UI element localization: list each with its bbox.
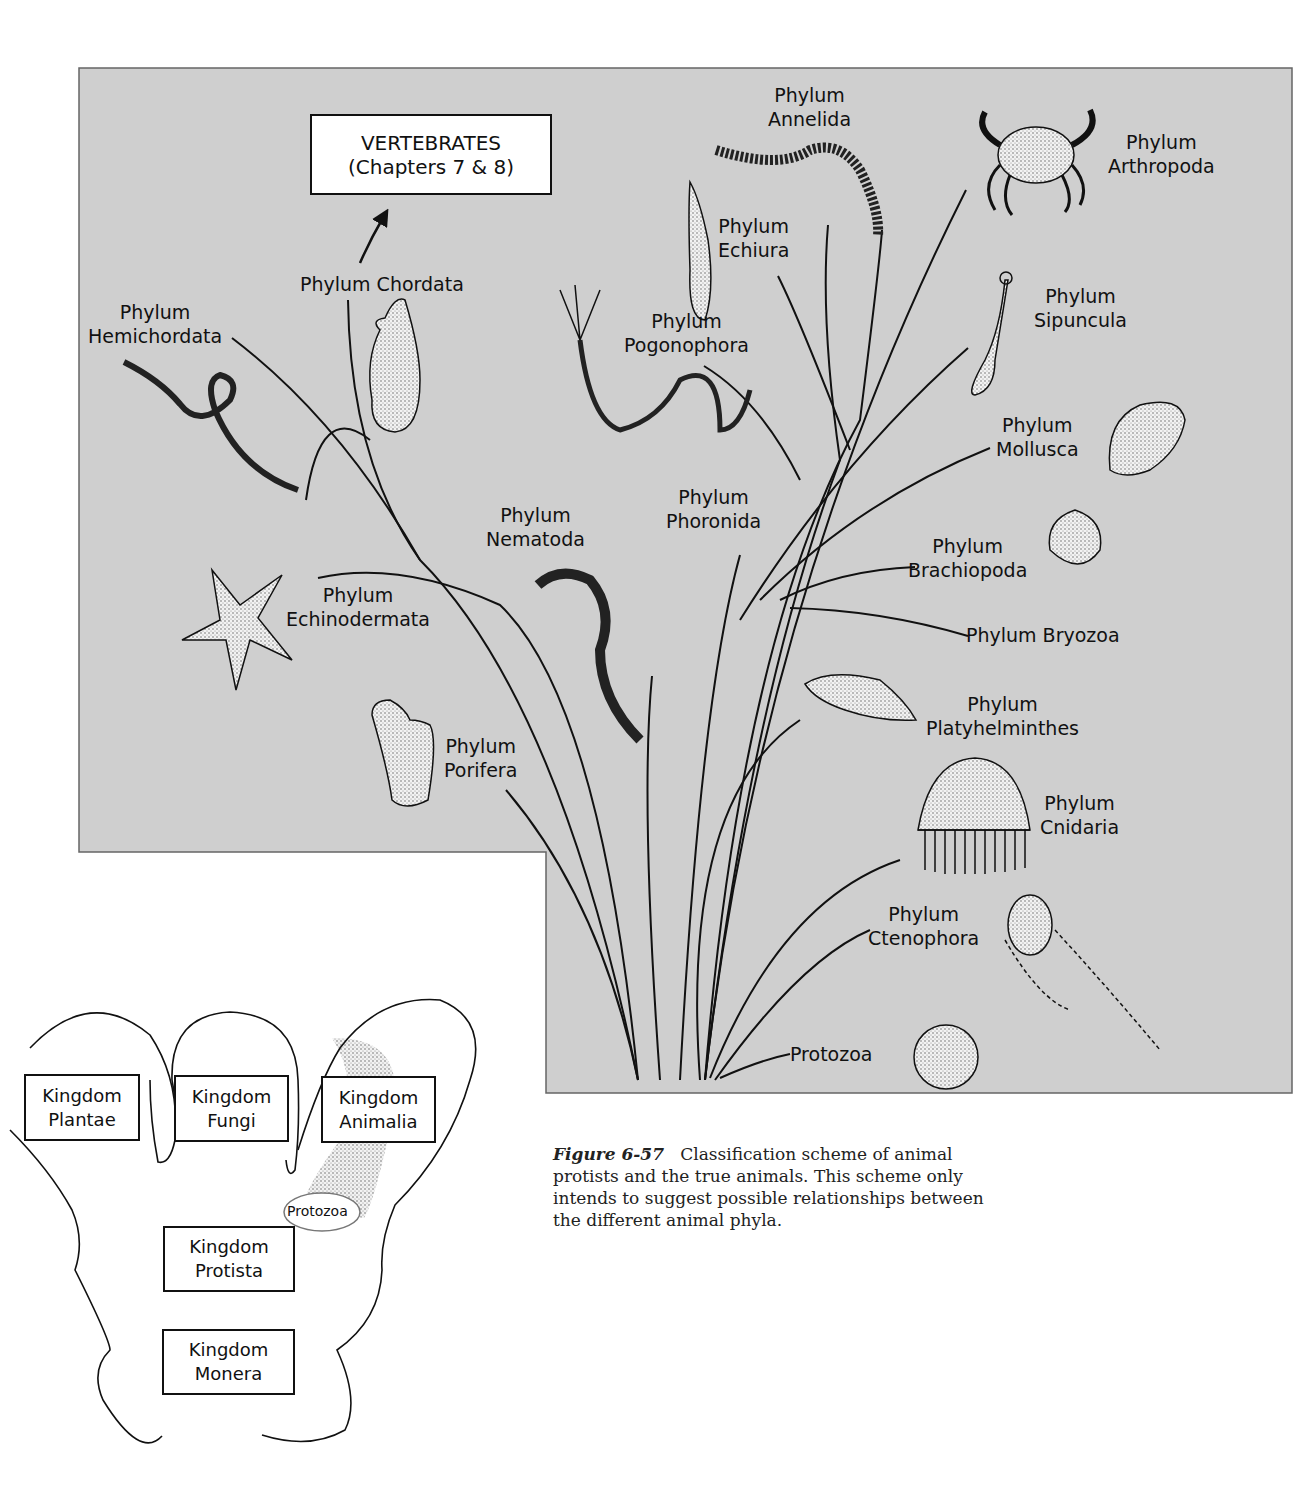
protozoa-oval-label: Protozoa bbox=[287, 1200, 348, 1222]
kingdom-monera-box: KingdomMonera bbox=[162, 1329, 295, 1395]
kingdom-animalia-box: KingdomAnimalia bbox=[321, 1076, 436, 1143]
label-protozoa: Protozoa bbox=[790, 1042, 872, 1066]
label-echinodermata: PhylumEchinodermata bbox=[286, 583, 430, 631]
kingdom-fungi-box: KingdomFungi bbox=[174, 1075, 289, 1142]
vertebrates-chapters: (Chapters 7 & 8) bbox=[348, 155, 514, 179]
vertebrates-title: VERTEBRATES bbox=[361, 131, 501, 155]
label-ctenophora: PhylumCtenophora bbox=[868, 902, 979, 950]
label-annelida: PhylumAnnelida bbox=[768, 83, 851, 131]
label-pogonophora: PhylumPogonophora bbox=[624, 309, 749, 357]
label-porifera: PhylumPorifera bbox=[444, 734, 517, 782]
label-phoronida: PhylumPhoronida bbox=[666, 485, 761, 533]
vertebrates-box: VERTEBRATES (Chapters 7 & 8) bbox=[310, 114, 552, 195]
label-brachiopoda: PhylumBrachiopoda bbox=[908, 534, 1027, 582]
label-nematoda: PhylumNematoda bbox=[486, 503, 585, 551]
tree-panel bbox=[79, 68, 1292, 1093]
figure-caption: Figure 6-57 Classification scheme of ani… bbox=[553, 1143, 993, 1231]
label-echiura: PhylumEchiura bbox=[718, 214, 789, 262]
label-bryozoa: Phylum Bryozoa bbox=[966, 623, 1120, 647]
label-mollusca: PhylumMollusca bbox=[996, 413, 1079, 461]
label-hemichordata: PhylumHemichordata bbox=[88, 300, 222, 348]
kingdom-protista-box: KingdomProtista bbox=[163, 1226, 295, 1292]
label-cnidaria: PhylumCnidaria bbox=[1040, 791, 1119, 839]
label-platyhelminthes: PhylumPlatyhelminthes bbox=[926, 692, 1079, 740]
kingdom-plantae-box: KingdomPlantae bbox=[24, 1074, 140, 1141]
label-chordata: Phylum Chordata bbox=[300, 272, 464, 296]
figure-number: Figure 6-57 bbox=[553, 1144, 664, 1164]
label-sipuncula: PhylumSipuncula bbox=[1034, 284, 1127, 332]
label-arthropoda: PhylumArthropoda bbox=[1108, 130, 1215, 178]
